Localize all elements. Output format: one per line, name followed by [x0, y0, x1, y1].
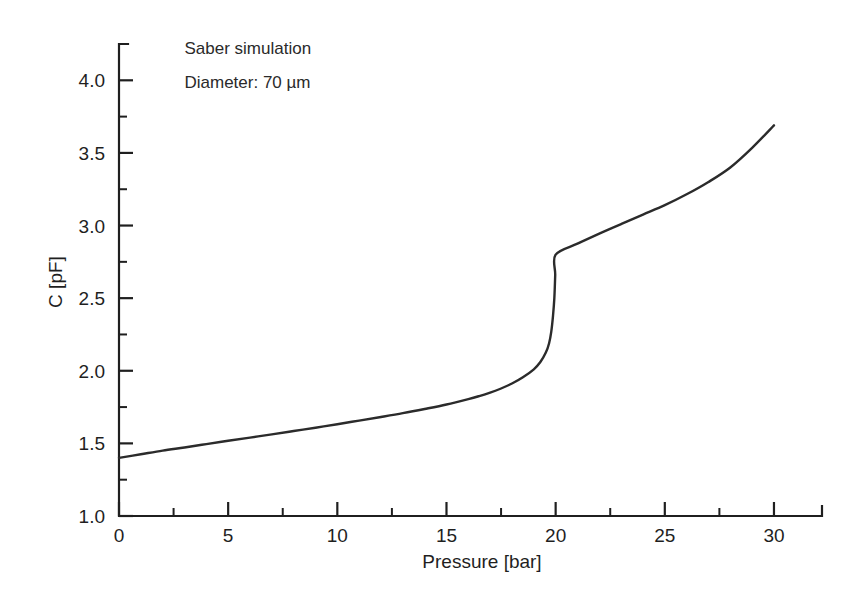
- y-tick-label: 3.0: [79, 216, 105, 237]
- axes: [119, 44, 822, 516]
- x-axis-major-ticks: [119, 502, 774, 516]
- x-tick-label: 25: [654, 525, 675, 546]
- y-tick-label: 1.0: [79, 506, 105, 527]
- x-axis-title: Pressure [bar]: [422, 551, 541, 572]
- y-tick-label: 2.5: [79, 288, 105, 309]
- chart-annotation-label: Saber simulation: [184, 39, 311, 58]
- x-tick-label: 20: [545, 525, 566, 546]
- x-tick-label: 15: [436, 525, 457, 546]
- capacitance-vs-pressure-chart: 1.01.52.02.53.03.54.0 051015202530 Press…: [0, 0, 864, 602]
- y-tick-label: 2.0: [79, 361, 105, 382]
- y-tick-label: 3.5: [79, 143, 105, 164]
- chart-figure: 1.01.52.02.53.03.54.0 051015202530 Press…: [0, 0, 864, 602]
- x-tick-label: 0: [114, 525, 125, 546]
- y-axis-tick-labels: 1.01.52.02.53.03.54.0: [79, 70, 105, 527]
- y-axis-minor-ticks: [119, 44, 127, 480]
- y-tick-label: 1.5: [79, 433, 105, 454]
- y-tick-label: 4.0: [79, 70, 105, 91]
- chart-annotations: Saber simulationDiameter: 70 µm: [184, 39, 311, 91]
- axis-lines: [119, 44, 822, 516]
- x-tick-label: 5: [223, 525, 234, 546]
- y-axis-major-ticks: [119, 80, 133, 516]
- x-tick-label: 30: [763, 525, 784, 546]
- data-series-group: [119, 125, 774, 458]
- data-curve-saber-simulation: [119, 125, 774, 458]
- chart-annotation-label: Diameter: 70 µm: [184, 73, 310, 92]
- x-tick-label: 10: [327, 525, 348, 546]
- x-axis-tick-labels: 051015202530: [114, 525, 785, 546]
- y-axis-title: C [pF]: [45, 256, 66, 308]
